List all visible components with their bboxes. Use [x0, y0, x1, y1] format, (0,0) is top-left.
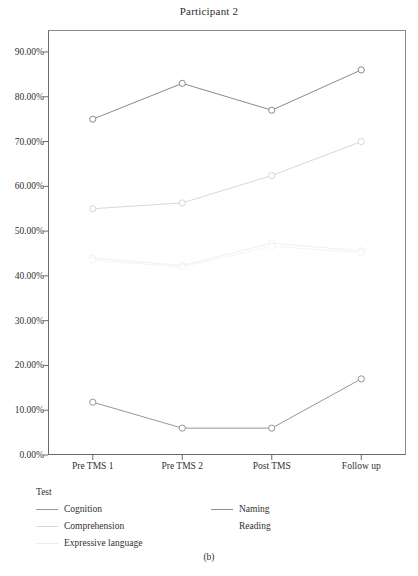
legend-line-swatch: [36, 543, 58, 544]
legend-item-label: Naming: [239, 504, 270, 514]
legend-item[interactable]: Comprehension: [36, 521, 124, 531]
series-line: [93, 379, 362, 428]
data-point-marker: [269, 107, 275, 113]
series-line: [93, 243, 362, 265]
legend-item-label: Comprehension: [64, 521, 124, 531]
legend-item[interactable]: Naming: [211, 504, 270, 514]
data-point-marker: [179, 200, 185, 206]
legend-item[interactable]: Expressive language: [36, 538, 142, 548]
legend-items: CognitionNamingComprehensionReadingExpre…: [36, 504, 396, 555]
data-point-marker: [269, 172, 275, 178]
series-line: [93, 142, 362, 209]
x-tick-label: Pre TMS 1: [72, 461, 114, 471]
data-point-marker: [90, 116, 96, 122]
figure-caption: (b): [0, 552, 418, 562]
data-point-marker: [358, 250, 364, 256]
data-point-marker: [90, 399, 96, 405]
figure-panel-b: Participant 2 0.00%10.00%20.00%30.00%40.…: [0, 0, 418, 576]
data-series-layer: [90, 67, 365, 431]
data-point-marker: [358, 67, 364, 73]
legend-item-label: Reading: [239, 521, 271, 531]
data-point-marker: [179, 264, 185, 270]
legend-title: Test: [36, 487, 396, 497]
series-cognition: [90, 376, 365, 431]
x-tick-label: Follow up: [342, 461, 381, 471]
legend-item-label: Cognition: [64, 504, 102, 514]
data-point-marker: [269, 243, 275, 249]
data-point-marker: [90, 257, 96, 263]
x-tick-label: Pre TMS 2: [161, 461, 203, 471]
legend-item-label: Expressive language: [64, 538, 142, 548]
data-point-marker: [90, 206, 96, 212]
series-line: [93, 246, 362, 267]
legend-line-swatch: [211, 526, 233, 527]
legend-line-swatch: [36, 509, 58, 510]
legend-line-swatch: [36, 526, 58, 527]
legend-item[interactable]: Reading: [211, 521, 271, 531]
data-point-marker: [179, 80, 185, 86]
data-point-marker: [358, 376, 364, 382]
data-point-marker: [269, 425, 275, 431]
series-comprehension: [90, 240, 365, 269]
data-point-marker: [358, 138, 364, 144]
series-reading: [90, 138, 365, 211]
legend: Test CognitionNamingComprehensionReading…: [36, 487, 396, 555]
legend-item[interactable]: Cognition: [36, 504, 102, 514]
x-tick-label: Post TMS: [253, 461, 291, 471]
legend-line-swatch: [211, 509, 233, 510]
series-line: [93, 70, 362, 119]
series-naming: [90, 67, 365, 122]
data-point-marker: [179, 425, 185, 431]
